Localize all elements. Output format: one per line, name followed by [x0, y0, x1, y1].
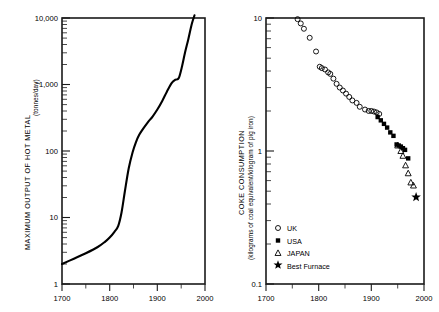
right-y-axis-title: COKE CONSUMPTION: [237, 130, 246, 215]
datapoint-usa: [385, 125, 389, 129]
datapoint-uk: [331, 76, 336, 81]
legend-label-usa: USA: [287, 237, 302, 246]
right-y-axis-units: (kilograms of coal equivalent/kilogram o…: [247, 116, 255, 260]
legend: UK USA JAPAN Best Furnace: [273, 224, 329, 271]
left-x-tick-1900: 1900: [149, 294, 166, 303]
figure-container: MAXIMUM OUTPUT OF HOT METAL (tonnes/day): [0, 0, 439, 312]
left-x-ticks: [62, 284, 205, 291]
datapoint-usa: [406, 156, 410, 160]
datapoint-uk: [337, 85, 342, 90]
left-x-tick-1700: 1700: [54, 294, 71, 303]
datapoint-usa: [391, 134, 395, 138]
right-x-ticks: [266, 284, 424, 291]
left-y-tick-100: 100: [45, 147, 58, 156]
datapoint-uk: [322, 67, 327, 72]
legend-marker-japan-icon: [275, 250, 281, 256]
max-output-curve: [62, 15, 195, 264]
legend-label-japan: JAPAN: [287, 249, 310, 258]
chart-panel-coke-consumption: COKE CONSUMPTION (kilograms of coal equi…: [219, 0, 438, 312]
left-y-tick-10000: 10,000: [35, 14, 58, 23]
right-x-tick-1700: 1700: [258, 294, 275, 303]
legend-label-best-furnace: Best Furnace: [287, 262, 330, 271]
datapoint-uk: [314, 49, 319, 54]
datapoint-usa: [403, 148, 407, 152]
left-x-tick-1800: 1800: [101, 294, 118, 303]
left-y-tick-1: 1: [54, 280, 58, 289]
legend-label-uk: UK: [287, 224, 297, 233]
right-y-tick-1: 1: [258, 147, 262, 156]
coke-consumption-markers: [295, 17, 421, 202]
left-y-tick-10: 10: [50, 213, 58, 222]
datapoint-japan: [403, 162, 409, 168]
legend-marker-uk-icon: [276, 226, 281, 231]
legend-marker-best-furnace-icon: [273, 260, 282, 269]
right-x-tick-2000: 2000: [416, 294, 433, 303]
datapoint-japan: [405, 170, 411, 176]
right-y-tick-0-1: 0.1: [251, 280, 262, 289]
datapoint-uk: [298, 21, 303, 26]
right-x-tick-1900: 1900: [363, 294, 380, 303]
right-x-tick-1800: 1800: [310, 294, 327, 303]
datapoint-best-furnace: [411, 192, 421, 201]
left-chart-svg: MAXIMUM OUTPUT OF HOT METAL (tonnes/day): [0, 0, 219, 312]
right-chart-svg: COKE CONSUMPTION (kilograms of coal equi…: [219, 0, 438, 312]
legend-marker-usa-icon: [276, 238, 280, 242]
left-x-tick-2000: 2000: [197, 294, 214, 303]
right-y-tick-10: 10: [254, 14, 262, 23]
datapoint-uk: [357, 104, 362, 109]
left-y-axis-title: MAXIMUM OUTPUT OF HOT METAL: [23, 115, 32, 250]
datapoint-uk: [340, 88, 345, 93]
left-y-tick-1000: 1,000: [39, 80, 58, 89]
chart-panel-max-output: MAXIMUM OUTPUT OF HOT METAL (tonnes/day): [0, 0, 219, 312]
datapoint-uk: [301, 26, 306, 31]
datapoint-uk: [307, 35, 312, 40]
